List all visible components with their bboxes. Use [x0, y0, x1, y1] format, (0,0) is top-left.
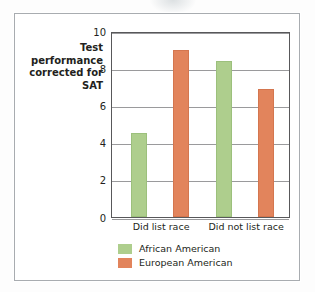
y-tick-label-10: 10: [93, 28, 106, 38]
y-tick-label-8: 8: [100, 65, 106, 75]
legend-swatch-icon-african-american: [118, 244, 132, 254]
bar-european-american-did-not-list-race[interactable]: [258, 89, 274, 217]
gridline-0: 0: [112, 219, 289, 220]
legend-item-african-american[interactable]: African American: [118, 242, 232, 255]
y-axis-title: Test performance corrected for SAT: [19, 42, 103, 92]
y-axis-title-line-4: SAT: [19, 80, 103, 93]
legend-item-european-american[interactable]: European American: [118, 256, 232, 269]
chart-legend: African American European American: [118, 242, 232, 270]
bar-african-american-did-list-race[interactable]: [131, 133, 147, 217]
y-tick-label-6: 6: [100, 102, 106, 112]
bar-african-american-did-not-list-race[interactable]: [216, 61, 232, 217]
legend-swatch-icon-european-american: [118, 258, 132, 268]
y-axis-title-line-2: performance: [19, 55, 103, 68]
plot-area: 10 8 6 4 2 0: [111, 32, 290, 218]
y-axis-title-line-3: corrected for: [19, 67, 103, 80]
legend-label-european-american: European American: [139, 258, 232, 268]
x-axis-label-group-2: Did not list race: [186, 222, 306, 232]
bar-european-american-did-list-race[interactable]: [173, 50, 189, 217]
y-tick-label-4: 4: [100, 139, 106, 149]
figure-frame: Test performance corrected for SAT 10 8 …: [14, 13, 300, 281]
gridline-10: 10: [112, 33, 289, 34]
gridline-8: 8: [112, 70, 289, 71]
y-tick-label-2: 2: [100, 176, 106, 186]
legend-label-african-american: African American: [139, 244, 220, 254]
y-axis-title-line-1: Test: [19, 42, 103, 55]
